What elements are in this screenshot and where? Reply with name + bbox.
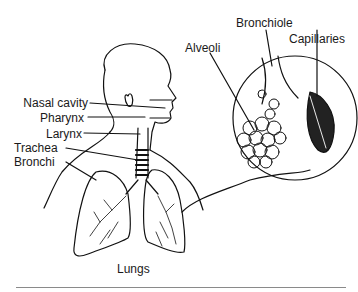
label-bronchi: Bronchi xyxy=(14,156,55,169)
label-nasal-cavity: Nasal cavity xyxy=(18,97,88,110)
ear xyxy=(125,94,133,107)
bottom-divider xyxy=(16,287,346,288)
magnified-circle xyxy=(233,56,357,180)
label-trachea: Trachea xyxy=(14,142,58,155)
label-capillaries: Capillaries xyxy=(289,33,345,46)
label-larynx: Larynx xyxy=(18,128,82,141)
label-alveoli: Alveoli xyxy=(185,42,220,55)
left-lung xyxy=(74,171,130,256)
label-lungs: Lungs xyxy=(117,263,150,276)
label-pharynx: Pharynx xyxy=(18,112,84,125)
label-bronchiole: Bronchiole xyxy=(236,17,293,30)
right-lung xyxy=(144,170,185,253)
